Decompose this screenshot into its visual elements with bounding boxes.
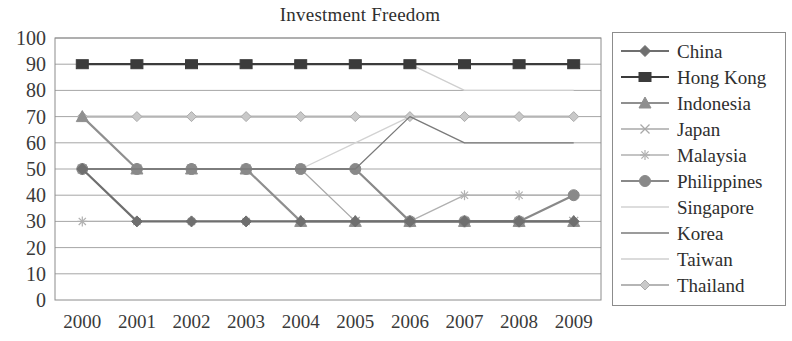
y-axis-tick-label: 20: [26, 237, 46, 259]
data-point-marker: [404, 60, 416, 69]
data-point-marker: [459, 60, 471, 69]
data-point-marker: [241, 112, 251, 122]
x-axis-tick-label: 2007: [446, 311, 484, 332]
data-point-marker: [131, 60, 143, 69]
x-axis-tick-label: 2008: [500, 311, 538, 332]
legend-label: Indonesia: [671, 94, 751, 113]
x-axis-tick-label: 2000: [63, 311, 101, 332]
data-point-marker: [513, 60, 525, 69]
x-axis-tick-label: 2001: [118, 311, 156, 332]
legend-swatch: [619, 170, 671, 192]
y-axis-tick-label: 0: [36, 289, 46, 311]
plot-area: 0102030405060708090100200020012002200320…: [0, 0, 612, 341]
data-point-marker: [568, 60, 580, 69]
legend-label: Taiwan: [671, 250, 733, 269]
data-point-marker: [350, 112, 360, 122]
legend-item-korea[interactable]: Korea: [613, 220, 785, 246]
data-point-marker: [640, 176, 651, 187]
x-axis-tick-label: 2003: [227, 311, 265, 332]
data-point-marker: [640, 46, 651, 57]
y-axis-tick-label: 80: [26, 79, 46, 101]
y-axis-tick-label: 90: [26, 53, 46, 75]
series-line: [82, 64, 573, 90]
legend-swatch: [619, 196, 671, 218]
data-point-marker: [349, 60, 361, 69]
legend-item-philippines[interactable]: Philippines: [613, 168, 785, 194]
legend-item-malaysia[interactable]: Malaysia: [613, 142, 785, 168]
legend-swatch: [619, 92, 671, 114]
data-point-marker: [241, 216, 252, 227]
data-point-marker: [460, 190, 470, 200]
legend-item-thailand[interactable]: Thailand: [613, 272, 785, 298]
legend-label: Japan: [671, 120, 720, 139]
legend-item-hong-kong[interactable]: Hong Kong: [613, 64, 785, 90]
data-point-marker: [186, 216, 197, 227]
data-point-marker: [295, 60, 307, 69]
y-axis-tick-label: 40: [26, 184, 46, 206]
y-axis-tick-label: 70: [26, 106, 46, 128]
legend-label: Malaysia: [671, 146, 747, 165]
legend-swatch: [619, 40, 671, 62]
legend-swatch: [619, 222, 671, 244]
data-point-marker: [132, 112, 142, 122]
y-axis-tick-label: 50: [26, 158, 46, 180]
legend-item-china[interactable]: China: [613, 38, 785, 64]
data-point-marker: [514, 112, 524, 122]
data-point-marker: [460, 112, 470, 122]
series-hong-kong: [76, 60, 579, 69]
data-point-marker: [640, 150, 650, 160]
legend-label: Hong Kong: [671, 68, 766, 87]
legend-label: China: [671, 42, 722, 61]
legend-item-singapore[interactable]: Singapore: [613, 194, 785, 220]
x-axis-tick-label: 2002: [173, 311, 211, 332]
legend-swatch: [619, 248, 671, 270]
data-point-marker: [186, 60, 198, 69]
x-axis-tick-label: 2005: [336, 311, 374, 332]
chart-container: Investment Freedom 010203040506070809010…: [0, 0, 792, 341]
plot-svg: 0102030405060708090100200020012002200320…: [0, 0, 612, 341]
data-point-marker: [568, 190, 579, 201]
legend-item-taiwan[interactable]: Taiwan: [613, 246, 785, 272]
data-point-marker: [76, 60, 88, 69]
legend-swatch: [619, 274, 671, 296]
legend-label: Korea: [671, 224, 723, 243]
data-point-marker: [640, 280, 650, 290]
legend-label: Thailand: [671, 276, 745, 295]
legend-swatch: [619, 144, 671, 166]
y-axis-tick-label: 100: [16, 27, 46, 49]
data-point-marker: [514, 190, 524, 200]
x-axis-tick-label: 2004: [282, 311, 321, 332]
series-taiwan: [82, 64, 573, 90]
y-axis-tick-label: 30: [26, 210, 46, 232]
legend-item-japan[interactable]: Japan: [613, 116, 785, 142]
chart-legend: ChinaHong KongIndonesiaJapanMalaysiaPhil…: [612, 32, 786, 306]
data-point-marker: [240, 60, 252, 69]
legend-swatch: [619, 118, 671, 140]
y-axis-tick-label: 60: [26, 132, 46, 154]
data-point-marker: [77, 216, 87, 226]
data-point-marker: [639, 73, 651, 82]
x-axis-tick-label: 2006: [391, 311, 429, 332]
legend-label: Singapore: [671, 198, 754, 217]
y-axis-tick-label: 10: [26, 263, 46, 285]
legend-item-indonesia[interactable]: Indonesia: [613, 90, 785, 116]
data-point-marker: [569, 112, 579, 122]
legend-swatch: [619, 66, 671, 88]
series-thailand: [77, 112, 578, 122]
legend-label: Philippines: [671, 172, 763, 191]
x-axis-tick-label: 2009: [555, 311, 593, 332]
series-line: [82, 195, 573, 221]
data-point-marker: [296, 112, 306, 122]
x-axis-labels: 2000200120022003200420052006200720082009: [63, 311, 592, 332]
data-point-marker: [187, 112, 197, 122]
